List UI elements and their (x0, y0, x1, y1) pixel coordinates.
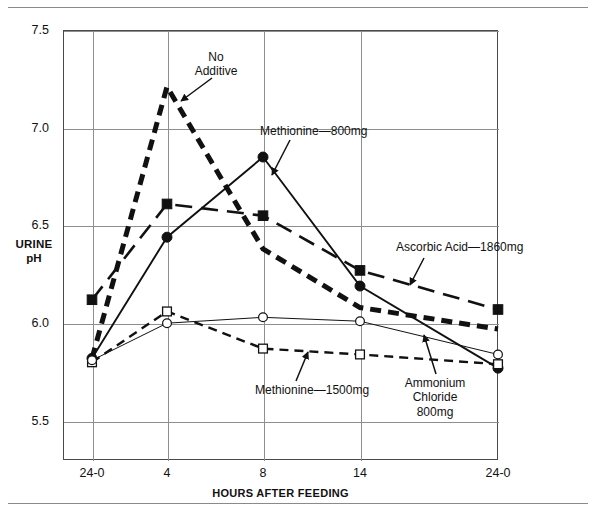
annotation-methionine-800: Methionine—800mg (260, 124, 367, 138)
arrow-no-additive (181, 78, 212, 101)
arrow-methionine-800 (272, 140, 290, 175)
annotation-ammonium-chloride: Ammonium Chloride 800mg (383, 376, 487, 419)
annotation-methionine-1500: Methionine—1500mg (255, 383, 369, 397)
arrow-ammonium-chloride (424, 335, 436, 374)
arrow-methionine-1500 (296, 352, 308, 381)
annotation-no-additive: No Additive (176, 50, 256, 79)
annotation-arrow-layer (0, 0, 595, 513)
chart-figure: 7.57.06.56.05.5 URINE pH 24-0481424-0 HO… (0, 0, 595, 513)
annotation-ascorbic-acid-1860: Ascorbic Acid—1860mg (396, 240, 523, 254)
arrow-ascorbic-acid (410, 258, 424, 285)
